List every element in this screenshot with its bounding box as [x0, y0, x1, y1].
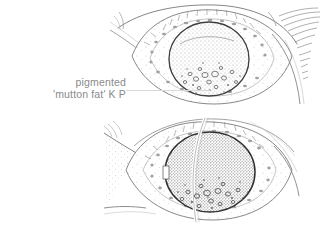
annotation-label: pigmented 'mutton fat' K P [14, 76, 126, 100]
eye-drawing-canvas [0, 0, 327, 236]
leader-line [126, 90, 210, 91]
lower-cornea-disc [165, 132, 255, 212]
upper-eye-panel [110, 4, 320, 108]
annotation-line-2: 'mutton fat' K P [14, 88, 126, 100]
annotation-line-1: pigmented [14, 76, 126, 88]
upper-cornea-disc [169, 22, 249, 96]
eye-illustration-figure: pigmented 'mutton fat' K P [0, 0, 327, 236]
lower-eye-panel [104, 118, 300, 224]
beam-limbal-block [163, 166, 169, 179]
